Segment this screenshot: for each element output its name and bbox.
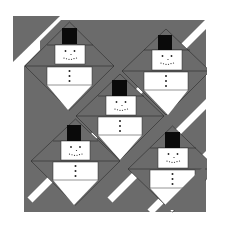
snowman-hat <box>67 125 81 141</box>
snowman-hat <box>165 132 180 148</box>
snowman-hat <box>158 35 172 50</box>
snowman-quilt <box>0 0 236 227</box>
snowman-hat <box>112 80 127 96</box>
snowman-head <box>106 96 136 115</box>
snowman-head <box>158 148 188 168</box>
snowman-head <box>152 50 182 70</box>
snowman-head <box>61 141 90 160</box>
snowman-hat <box>62 28 77 44</box>
snowman-head <box>55 45 85 64</box>
